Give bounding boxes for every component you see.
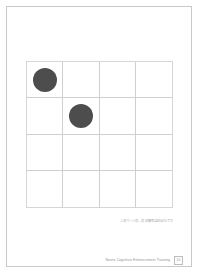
document-page: このページの...の正解率は約00%です Neuro Cognitive Enh… [6, 6, 192, 267]
grid-cell-r2c4[interactable] [136, 98, 172, 134]
grid-cell-r2c2[interactable] [63, 98, 99, 134]
grid-cell-r1c1[interactable] [27, 62, 63, 98]
grid-cell-r4c3[interactable] [100, 171, 136, 207]
page-footer: Neuro Cognitive Enhancement Training 10 [26, 253, 183, 267]
grid-cell-r2c3[interactable] [100, 98, 136, 134]
grid-dot [33, 68, 57, 92]
grid-cell-r1c2[interactable] [63, 62, 99, 98]
memory-grid[interactable] [26, 61, 173, 208]
page-number-badge: 10 [174, 256, 183, 265]
grid-cell-r4c4[interactable] [136, 171, 172, 207]
grid-cell-r1c3[interactable] [100, 62, 136, 98]
grid-cell-r2c1[interactable] [27, 98, 63, 134]
grid-cell-r4c2[interactable] [63, 171, 99, 207]
grid-cell-r3c4[interactable] [136, 135, 172, 171]
grid-cell-r3c3[interactable] [100, 135, 136, 171]
grid-cells-container [26, 61, 173, 208]
grid-caption: このページの...の正解率は約00%です [26, 219, 173, 224]
footer-title: Neuro Cognitive Enhancement Training [105, 257, 170, 263]
grid-cell-r4c1[interactable] [27, 171, 63, 207]
grid-cell-r3c2[interactable] [63, 135, 99, 171]
grid-cell-r1c4[interactable] [136, 62, 172, 98]
grid-dot [69, 104, 93, 128]
grid-cell-r3c1[interactable] [27, 135, 63, 171]
